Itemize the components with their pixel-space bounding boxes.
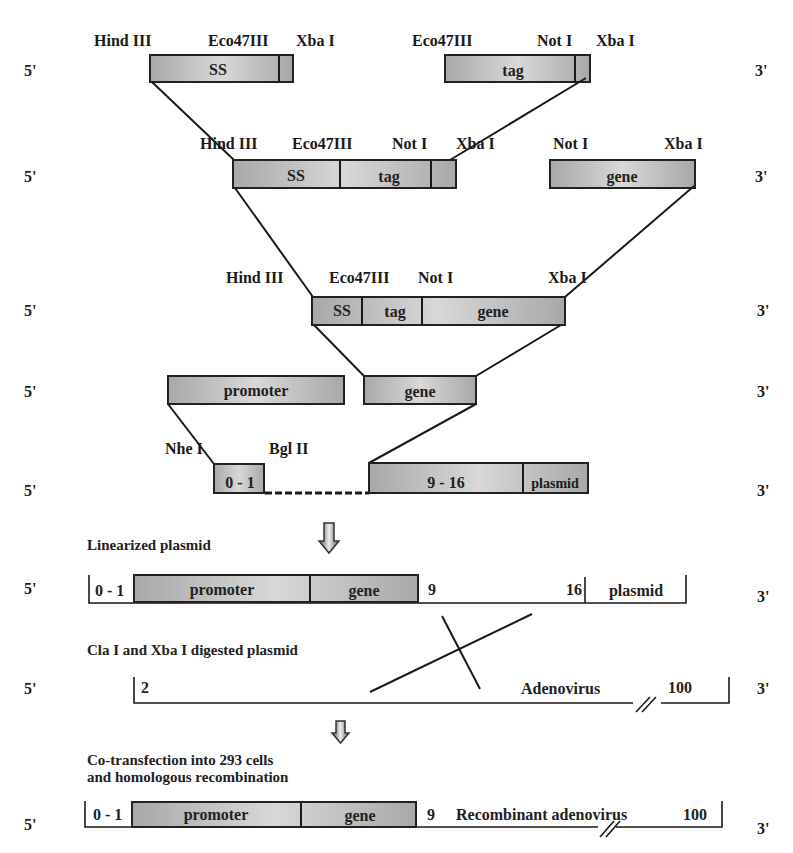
down-arrow-icon [332, 721, 349, 743]
site-label-not1: Not I [418, 269, 453, 286]
row-4-fragments: promoter gene [168, 376, 476, 404]
site-label-xba1: Xba I [548, 269, 587, 286]
site-label-xba1: Xba I [664, 135, 703, 152]
left-mark: 0 - 1 [93, 806, 122, 823]
three-prime-label: 3' [757, 820, 769, 837]
five-prime-label: 5' [24, 816, 36, 833]
row-3-fragment: Hind III Eco47III Not I Xba I SS tag gen… [226, 269, 587, 325]
site-label-hind3: Hind III [226, 269, 283, 286]
site-label-bgl2: Bgl II [269, 440, 309, 458]
recombinant-caption-line1: Co-transfection into 293 cells [87, 752, 273, 768]
row-5-vector: Nhe I Bgl II 0 - 1 9 - 16 plasmid [165, 440, 588, 493]
digested-caption: Cla I and Xba I digested plasmid [87, 642, 299, 658]
row-2-fragments: Hind III Eco47III Not I Xba I SS tag Not… [200, 135, 703, 188]
site-label-not1: Not I [537, 32, 572, 49]
left-mark: 2 [141, 679, 149, 696]
site-label-xba1: Xba I [296, 32, 335, 49]
five-prime-label: 5' [24, 482, 36, 499]
adenovirus-label: Adenovirus [521, 680, 600, 697]
promoter-label: promoter [184, 806, 249, 824]
recombinant-caption-line2: and homologous recombination [87, 769, 289, 785]
plasmid-label: plasmid [531, 476, 579, 491]
tag-label: tag [502, 62, 523, 80]
ss-tag-fragment-box [233, 160, 456, 188]
site-label-xba1: Xba I [456, 135, 495, 152]
three-prime-label: 3' [757, 482, 769, 499]
right-mark: 100 [683, 806, 707, 823]
gene-label: gene [344, 807, 375, 825]
site-label-nhe1: Nhe I [165, 440, 203, 457]
three-prime-label: 3' [755, 168, 767, 185]
mark-9: 9 [428, 581, 436, 598]
three-prime-label: 3' [757, 588, 769, 605]
row-1-fragments: Hind III Eco47III Xba I SS Eco47III Not … [94, 32, 635, 82]
promoter-label: promoter [224, 382, 289, 400]
site-label-eco47iii: Eco47III [412, 32, 472, 49]
mark-16: 16 [566, 581, 582, 598]
three-prime-label: 3' [757, 302, 769, 319]
double-slash-break-icon [598, 821, 620, 837]
three-prime-labels: 3' 3' 3' 3' 3' 3' 3' 3' [755, 62, 769, 837]
three-prime-label: 3' [757, 680, 769, 697]
digested-adenovirus: Cla I and Xba I digested plasmid 2 Adeno… [87, 642, 729, 712]
five-prime-label: 5' [24, 302, 36, 319]
five-prime-label: 5' [24, 383, 36, 400]
down-arrow-icon [319, 523, 339, 553]
five-prime-label: 5' [24, 62, 36, 79]
ss-label: SS [287, 167, 305, 184]
three-prime-label: 3' [757, 383, 769, 400]
site-label-hind3: Hind III [94, 32, 151, 49]
five-prime-labels: 5' 5' 5' 5' 5' 5' 5' 5' [24, 62, 36, 833]
linearized-caption: Linearized plasmid [87, 537, 211, 553]
site-label-not1: Not I [553, 135, 588, 152]
promoter-label: promoter [190, 581, 255, 599]
site-label-eco47iii: Eco47III [329, 269, 389, 286]
gene-label: gene [404, 383, 435, 401]
site-label-not1: Not I [392, 135, 427, 152]
recombinant-adenovirus-label: Recombinant adenovirus [456, 806, 627, 823]
ss-label: SS [209, 61, 227, 78]
site-label-eco47iii: Eco47III [208, 32, 268, 49]
site-label-hind3: Hind III [200, 135, 257, 152]
gene-label: gene [348, 582, 379, 600]
crossover-x-icon [370, 614, 532, 692]
gene-label: gene [606, 168, 637, 186]
double-slash-break-icon [636, 697, 656, 712]
cloning-diagram: 5' 5' 5' 5' 5' 5' 5' 5' 3' 3' 3' 3' 3' 3… [0, 0, 793, 853]
right-arm-label: 9 - 16 [427, 474, 464, 491]
ss-label: SS [333, 302, 351, 319]
five-prime-label: 5' [24, 680, 36, 697]
five-prime-label: 5' [24, 168, 36, 185]
tag-label: tag [384, 303, 405, 321]
left-mark: 0 - 1 [95, 582, 124, 599]
gene-label: gene [477, 303, 508, 321]
recombinant-adenovirus: Co-transfection into 293 cells and homol… [85, 752, 722, 837]
plasmid-label: plasmid [609, 582, 663, 600]
site-label-xba1: Xba I [596, 32, 635, 49]
linearized-plasmid: Linearized plasmid 0 - 1 promoter gene 9… [87, 537, 686, 603]
three-prime-label: 3' [755, 62, 767, 79]
left-arm-label: 0 - 1 [225, 474, 254, 491]
right-mark: 100 [668, 679, 692, 696]
five-prime-label: 5' [24, 580, 36, 597]
site-label-eco47iii: Eco47III [292, 135, 352, 152]
mark-9: 9 [427, 806, 435, 823]
tag-label: tag [378, 168, 399, 186]
